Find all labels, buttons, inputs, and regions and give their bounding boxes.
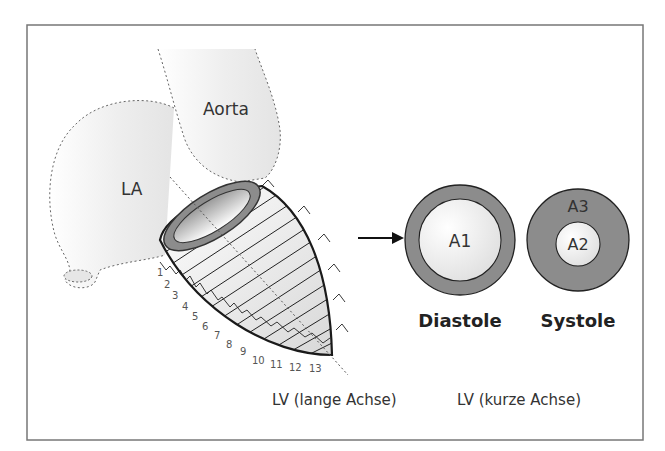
svg-text:4: 4 — [182, 301, 188, 312]
svg-text:2: 2 — [164, 279, 170, 290]
pulmonary-vein-stub — [64, 270, 92, 282]
label-lv-long-axis: LV (lange Achse) — [272, 391, 397, 409]
svg-text:1: 1 — [157, 267, 163, 278]
svg-text:8: 8 — [226, 339, 232, 350]
systole-short-axis: A2 A3 — [527, 189, 629, 291]
svg-text:10: 10 — [252, 355, 265, 366]
svg-text:13: 13 — [309, 363, 322, 374]
diastole-short-axis: A1 — [405, 185, 515, 295]
label-a1: A1 — [449, 231, 471, 251]
svg-text:7: 7 — [214, 330, 220, 341]
svg-text:5: 5 — [192, 311, 198, 322]
label-systole: Systole — [541, 310, 616, 331]
label-aorta: Aorta — [203, 99, 249, 119]
label-la: LA — [121, 179, 143, 199]
svg-text:6: 6 — [202, 321, 208, 332]
label-lv-short-axis: LV (kurze Achse) — [457, 391, 581, 409]
svg-text:3: 3 — [172, 290, 178, 301]
arrow-icon — [358, 232, 404, 244]
label-a2: A2 — [567, 235, 588, 254]
label-a3: A3 — [567, 197, 588, 216]
la-outline — [50, 101, 174, 288]
lv-volume-diagram: 1 2 3 4 5 6 7 8 9 10 11 12 13 Aorta LA A… — [0, 0, 665, 451]
svg-text:12: 12 — [289, 362, 302, 373]
svg-text:9: 9 — [240, 346, 246, 357]
svg-text:11: 11 — [270, 359, 283, 370]
label-diastole: Diastole — [418, 310, 501, 331]
